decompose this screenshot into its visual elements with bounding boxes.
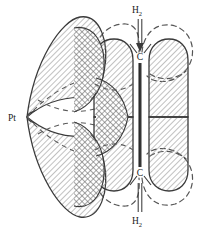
hydrogen-bottom-label: H2 [132, 216, 142, 228]
metal-atom-label: Pt [8, 113, 16, 123]
orbital-diagram-svg: Pt C C H2 H2 [0, 0, 207, 234]
ethylene-pi-lobe-right-upper [149, 39, 188, 117]
carbon-bottom-label: C [137, 168, 143, 178]
ethylene-pi-lobe-right-lower [149, 117, 188, 191]
hydrogen-top-label: H2 [132, 5, 142, 17]
orbital-diagram-figure: Pt C C H2 H2 [0, 0, 207, 234]
carbon-top-label: C [137, 52, 143, 62]
